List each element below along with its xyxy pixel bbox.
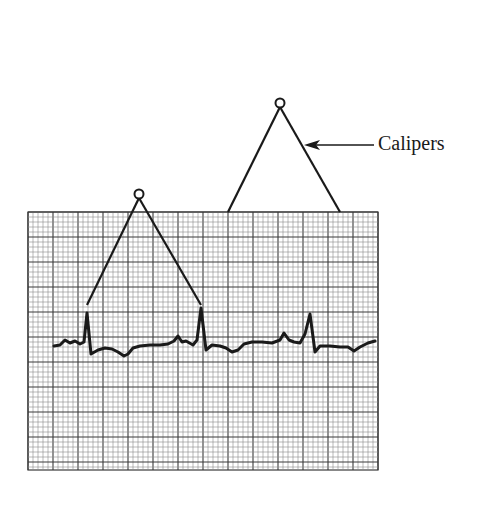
caliper-pivot-icon — [276, 99, 285, 108]
ecg-grid-paper — [28, 212, 378, 470]
calipers-diagram: Calipers — [0, 0, 495, 513]
caliper-pivot-icon — [135, 190, 144, 199]
arrow-icon — [304, 140, 374, 150]
diagram-canvas — [0, 0, 495, 513]
calipers-label: Calipers — [378, 132, 445, 155]
large-caliper — [228, 99, 340, 213]
